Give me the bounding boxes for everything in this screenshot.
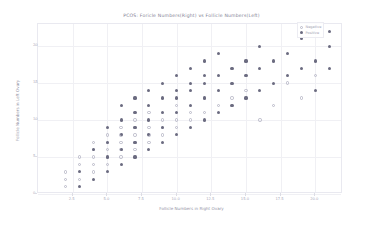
data-point (230, 104, 233, 107)
data-point (189, 89, 192, 92)
y-tick-mark (34, 193, 37, 194)
open-circle-icon (300, 26, 303, 29)
data-point (175, 104, 178, 107)
data-point (230, 82, 233, 85)
data-point (106, 163, 109, 166)
data-point (203, 74, 206, 77)
data-point (92, 163, 95, 166)
data-point (175, 126, 178, 129)
data-point (120, 104, 123, 107)
data-point (175, 118, 178, 121)
x-axis-title: Follicle Numbers in Right Ovary (0, 206, 383, 211)
data-point (314, 74, 317, 77)
data-point (161, 111, 164, 114)
data-point (133, 118, 136, 121)
data-point (328, 30, 331, 33)
data-point (272, 59, 275, 62)
data-point (217, 104, 220, 107)
gridline-vertical (211, 24, 212, 192)
data-point (147, 111, 150, 114)
data-point (300, 96, 303, 99)
data-point (244, 59, 247, 62)
gridline-vertical (281, 24, 282, 192)
legend-item[interactable]: Negative (300, 25, 321, 30)
data-point (147, 148, 150, 151)
data-point (328, 45, 331, 48)
data-point (133, 111, 136, 114)
data-point (120, 148, 123, 151)
data-point (203, 118, 206, 121)
x-tick-mark (210, 193, 211, 196)
x-tick-label: 15.0 (241, 197, 249, 201)
data-point (106, 155, 109, 158)
data-point (147, 89, 150, 92)
data-point (203, 96, 206, 99)
data-point (92, 170, 95, 173)
gridline-horizontal (38, 157, 341, 158)
gridline-vertical (315, 24, 316, 192)
data-point (272, 104, 275, 107)
data-point (147, 141, 150, 144)
data-point (147, 118, 150, 121)
data-point (189, 118, 192, 121)
gridline-vertical (107, 24, 108, 192)
data-point (133, 133, 136, 136)
legend-item[interactable]: Positive (300, 30, 321, 35)
data-point (161, 96, 164, 99)
data-point (147, 104, 150, 107)
data-point (133, 126, 136, 129)
data-point (133, 155, 136, 158)
data-point (106, 141, 109, 144)
data-point (189, 111, 192, 114)
gridline-vertical (177, 24, 178, 192)
gridline-horizontal (38, 194, 341, 195)
gridline-horizontal (38, 46, 341, 47)
data-point (161, 133, 164, 136)
x-tick-label: 20.0 (310, 197, 318, 201)
data-point (258, 67, 261, 70)
y-tick-mark (34, 45, 37, 46)
data-point (328, 67, 331, 70)
data-point (189, 82, 192, 85)
x-tick-label: 2.5 (69, 197, 75, 201)
y-tick-mark (34, 82, 37, 83)
data-point (92, 148, 95, 151)
data-point (161, 126, 164, 129)
data-point (64, 178, 67, 181)
data-point (78, 185, 81, 188)
data-point (175, 74, 178, 77)
gridline-vertical (73, 24, 74, 192)
x-tick-label: 7.5 (138, 197, 144, 201)
data-point (217, 89, 220, 92)
data-point (92, 178, 95, 181)
filled-circle-icon (300, 31, 303, 34)
data-point (286, 52, 289, 55)
data-point (175, 89, 178, 92)
x-tick-mark (72, 193, 73, 196)
data-point (286, 74, 289, 77)
data-point (161, 118, 164, 121)
x-tick-mark (106, 193, 107, 196)
chart-screenshot: PCOS: Foricle Numbers(Right) vs Follicle… (0, 0, 383, 229)
data-point (106, 126, 109, 129)
data-point (230, 67, 233, 70)
data-point (147, 126, 150, 129)
legend-label: Positive (306, 31, 320, 35)
x-tick-label: 5.0 (103, 197, 109, 201)
data-point (106, 170, 109, 173)
data-point (272, 82, 275, 85)
data-point (64, 185, 67, 188)
data-point (106, 148, 109, 151)
data-point (120, 118, 123, 121)
data-point (175, 133, 178, 136)
data-point (106, 133, 109, 136)
chart-title: PCOS: Foricle Numbers(Right) vs Follicle… (0, 13, 383, 18)
data-point (230, 96, 233, 99)
x-tick-label: 12.5 (206, 197, 214, 201)
data-point (258, 118, 261, 121)
data-point (78, 170, 81, 173)
data-point (203, 111, 206, 114)
data-point (133, 148, 136, 151)
y-tick-mark (34, 119, 37, 120)
data-point (314, 59, 317, 62)
